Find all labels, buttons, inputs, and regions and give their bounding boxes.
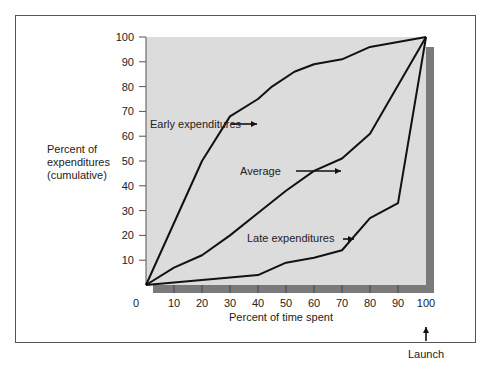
y-tick-label: 70: [122, 105, 134, 117]
y-tick-label: 30: [122, 205, 134, 217]
x-tick-label: 100: [417, 297, 435, 309]
arrow-icon-launch-head: [423, 327, 429, 333]
chart-plot: 1020304050607080901000102030405060708090…: [0, 0, 490, 369]
y-tick-label: 50: [122, 155, 134, 167]
early-expenditures-label: Early expenditures: [150, 118, 242, 130]
y-tick-label: 90: [122, 56, 134, 68]
late-expenditures-label: Late expenditures: [247, 232, 335, 244]
x-tick-label: 80: [364, 297, 376, 309]
x-tick-label: 20: [196, 297, 208, 309]
y-tick-label: 80: [122, 81, 134, 93]
x-tick-label: 30: [224, 297, 236, 309]
y-tick-label: 100: [116, 31, 134, 43]
plot-shadow-bottom: [153, 285, 434, 293]
plot-shadow-right: [426, 47, 434, 293]
x-tick-label: 0: [133, 297, 139, 309]
y-tick-label: 40: [122, 180, 134, 192]
x-tick-label: 50: [280, 297, 292, 309]
x-tick-label: 70: [336, 297, 348, 309]
y-tick-label: 20: [122, 229, 134, 241]
average-label: Average: [240, 165, 281, 177]
x-tick-label: 10: [168, 297, 180, 309]
y-tick-label: 60: [122, 130, 134, 142]
x-tick-label: 60: [308, 297, 320, 309]
plot-area: [146, 37, 426, 285]
launch-label: Launch: [408, 348, 444, 360]
y-tick-label: 10: [122, 254, 134, 266]
x-tick-label: 40: [252, 297, 264, 309]
x-axis-label: Percent of time spent: [229, 311, 333, 323]
x-tick-label: 90: [392, 297, 404, 309]
